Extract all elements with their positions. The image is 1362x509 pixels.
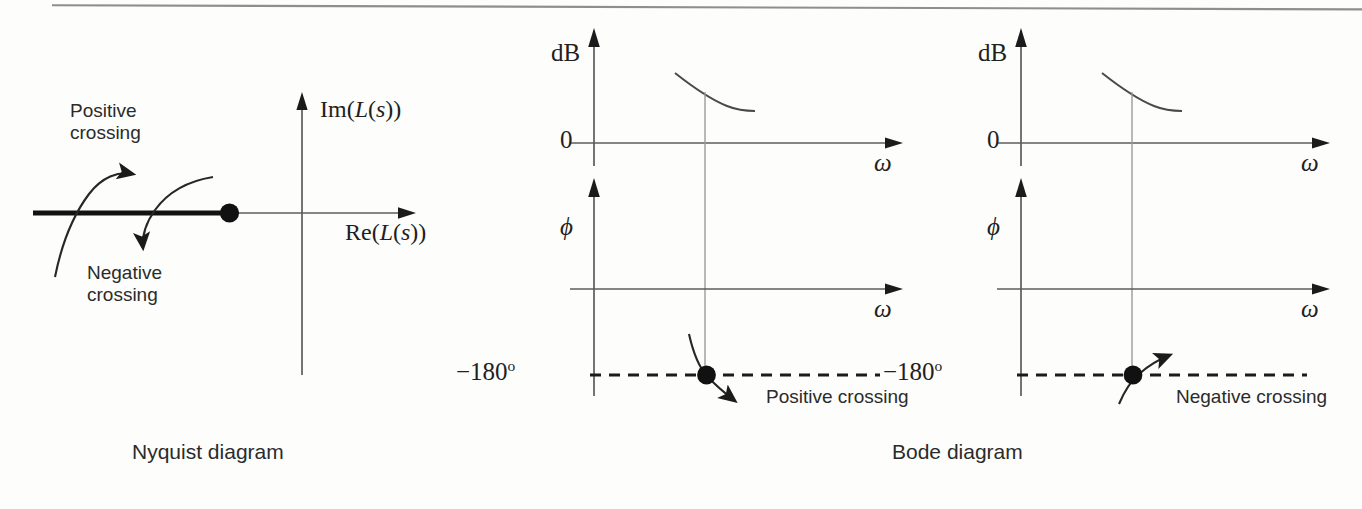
bode-right-magnitude-frequency-arrowhead [1312, 137, 1330, 148]
nyquist-positive-crossing-line2: crossing [70, 122, 141, 144]
nyquist-negative-crossing-line1: Negative [87, 262, 162, 284]
nyquist-imaginary-axis-label: Im(L(s)) [320, 95, 401, 123]
bode-left-phase-frequency-label: ω [874, 294, 892, 324]
bode-right-phase-reference-value: −180 [883, 358, 935, 385]
bode-left-phase-axis-label: ϕ [560, 212, 573, 242]
bode-right-magnitude-frequency-label: ω [1301, 148, 1319, 178]
bode-left-phase-reference-value: −180 [456, 358, 508, 385]
bode-left-phase-reference-degree: o [508, 357, 516, 374]
bode-right-magnitude-axis-arrowhead [1015, 28, 1027, 47]
bode-left-phase-reference-label: −180o [456, 357, 515, 387]
bode-right-phase-frequency-label: ω [1301, 294, 1319, 324]
bode-right-magnitude-zero-label: 0 [987, 125, 1000, 155]
nyquist-positive-crossing-line1: Positive [70, 100, 141, 122]
bode-left-magnitude-frequency-label: ω [874, 148, 892, 178]
real-label-suffix: )) [410, 219, 426, 245]
bode-left-phase-axis-arrowhead [588, 178, 600, 197]
real-label-prefix: Re( [345, 219, 380, 245]
bode-left-diagram [570, 28, 903, 401]
imaginary-label-suffix: )) [385, 96, 401, 122]
bode-right-magnitude-axis-label: dB [978, 38, 1007, 68]
nyquist-imaginary-axis-arrowhead [296, 92, 307, 110]
real-label-argument: s [401, 219, 410, 245]
diagram-vector-layer [0, 0, 1362, 509]
bode-right-phase-reference-label: −180o [883, 357, 942, 387]
bode-left-phase-frequency-arrowhead [885, 283, 903, 294]
bode-right-diagram [997, 28, 1330, 404]
nyquist-diagram-caption: Nyquist diagram [132, 440, 284, 465]
bode-left-magnitude-frequency-arrowhead [885, 137, 903, 148]
real-label-mid: ( [393, 219, 401, 245]
bode-right-phase-axis-label: ϕ [987, 212, 1000, 242]
imaginary-label-variable: L [355, 96, 368, 122]
nyquist-negative-crossing-line2: crossing [87, 284, 162, 306]
nyquist-real-axis-label: Re(L(s)) [345, 218, 426, 246]
figure-canvas: Positive crossing Negative crossing Im(L… [0, 0, 1362, 509]
imaginary-label-mid: ( [368, 96, 376, 122]
bode-left-crossing-annotation: Positive crossing [766, 386, 909, 408]
bode-diagram-caption: Bode diagram [892, 440, 1023, 465]
bode-right-crossing-annotation: Negative crossing [1176, 386, 1327, 408]
bode-right-phase-crossing-marker [1124, 366, 1143, 385]
real-label-variable: L [380, 219, 393, 245]
bode-left-phase-crossing-marker [697, 366, 716, 385]
bode-right-phase-axis-arrowhead [1015, 178, 1027, 197]
bode-left-magnitude-axis-arrowhead [588, 28, 600, 47]
nyquist-positive-crossing-annotation: Positive crossing [70, 100, 141, 145]
bode-left-magnitude-curve [675, 73, 755, 111]
bode-left-magnitude-axis-label: dB [551, 38, 580, 68]
bode-right-phase-frequency-arrowhead [1312, 283, 1330, 294]
imaginary-label-prefix: Im( [320, 96, 355, 122]
top-divider-rule [52, 5, 1362, 9]
bode-right-phase-reference-degree: o [935, 357, 943, 374]
imaginary-label-argument: s [376, 96, 385, 122]
nyquist-critical-point-marker [220, 203, 239, 222]
bode-right-magnitude-curve [1102, 73, 1182, 111]
nyquist-negative-crossing-annotation: Negative crossing [87, 262, 162, 307]
bode-left-magnitude-zero-label: 0 [560, 125, 573, 155]
